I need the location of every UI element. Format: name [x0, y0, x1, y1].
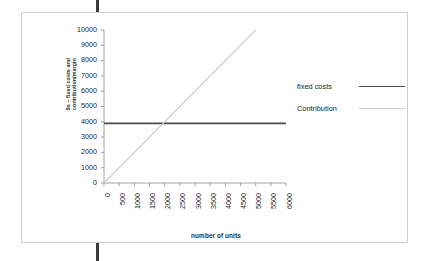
- chart-legend: fixed costsContribution: [297, 75, 422, 119]
- legend-item-contribution[interactable]: Contribution: [297, 97, 422, 119]
- y-tick-label: 8000: [63, 56, 97, 64]
- x-tick-label: 5500: [270, 193, 278, 223]
- y-tick-label: 3000: [63, 133, 97, 141]
- series-layer: [104, 30, 286, 183]
- x-tick-label: 2500: [179, 193, 187, 223]
- y-tick-label: 4000: [63, 118, 97, 126]
- x-tick-label: 6000: [286, 193, 294, 223]
- x-tick-label: 1000: [134, 193, 142, 223]
- y-tick-label: 5000: [63, 102, 97, 110]
- y-tick-label: 0: [63, 179, 97, 187]
- y-tick-label: 1000: [63, 164, 97, 172]
- series-line-contribution: [104, 30, 256, 183]
- x-tick-label: 5000: [255, 193, 263, 223]
- y-tick-label: 2000: [63, 148, 97, 156]
- chart-screenshot: $s – fixed costs and contribution/margin…: [0, 0, 424, 261]
- x-tick-label: 0: [104, 193, 112, 223]
- legend-item-fixed-costs[interactable]: fixed costs: [297, 75, 422, 97]
- x-tick-label: 3500: [210, 193, 218, 223]
- axis-layer: [101, 30, 286, 186]
- x-tick-label: 500: [119, 193, 127, 223]
- legend-label: fixed costs: [297, 82, 359, 91]
- chart-figure-frame: $s – fixed costs and contribution/margin…: [21, 12, 408, 243]
- legend-swatch: [359, 108, 405, 109]
- y-tick-label: 6000: [63, 87, 97, 95]
- legend-swatch: [359, 86, 405, 87]
- y-tick-label: 7000: [63, 72, 97, 80]
- x-tick-label: 1500: [149, 193, 157, 223]
- x-tick-label: 2000: [164, 193, 172, 223]
- x-axis-title: number of units: [125, 232, 307, 239]
- x-tick-label: 4500: [240, 193, 248, 223]
- x-tick-label: 3000: [195, 193, 203, 223]
- legend-label: Contribution: [297, 104, 359, 113]
- page-rule-mark-bottom: [96, 243, 99, 261]
- x-tick-label: 4000: [225, 193, 233, 223]
- y-tick-label: 9000: [63, 41, 97, 49]
- y-tick-label: 10000: [63, 26, 97, 34]
